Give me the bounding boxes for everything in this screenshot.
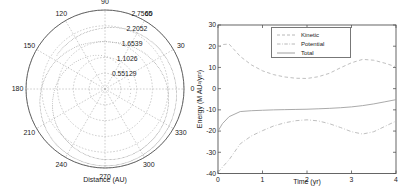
legend-label-total: Total xyxy=(301,50,314,56)
legend-label-kinetic: Kinetic xyxy=(301,32,319,38)
svg-text:2.2052: 2.2052 xyxy=(127,25,148,32)
svg-text:3: 3 xyxy=(350,176,354,183)
svg-text:1.1026: 1.1026 xyxy=(117,55,138,62)
svg-text:-40: -40 xyxy=(206,170,216,177)
svg-text:-30: -30 xyxy=(206,149,216,156)
svg-text:1.6539: 1.6539 xyxy=(122,40,143,47)
legend: Kinetic Potential Total xyxy=(271,27,351,58)
legend-row-kinetic: Kinetic xyxy=(276,30,350,39)
svg-text:300: 300 xyxy=(143,161,155,168)
polar-trajectory-plot: 03060901201501802102402703003300.551291.… xyxy=(12,0,195,180)
time-axis-label: Time (yr) xyxy=(293,178,321,185)
distance-axis-label: Distance (AU) xyxy=(83,176,127,183)
svg-text:180: 180 xyxy=(12,85,24,92)
svg-text:0: 0 xyxy=(212,85,216,92)
legend-label-potential: Potential xyxy=(301,41,324,47)
svg-text:30: 30 xyxy=(208,21,216,28)
svg-text:10: 10 xyxy=(208,64,216,71)
svg-text:2.7565: 2.7565 xyxy=(131,10,152,17)
svg-text:30: 30 xyxy=(177,42,185,49)
svg-text:1: 1 xyxy=(261,176,265,183)
total-solid-line-icon xyxy=(276,51,296,55)
svg-text:0: 0 xyxy=(216,176,220,183)
svg-text:330: 330 xyxy=(175,129,187,136)
legend-row-potential: Potential xyxy=(276,39,350,48)
svg-text:0.55129: 0.55129 xyxy=(112,70,137,77)
svg-text:120: 120 xyxy=(55,10,67,17)
svg-text:240: 240 xyxy=(55,161,67,168)
kinetic-dashed-line-icon xyxy=(276,33,296,37)
energy-axis-label: Energy (M AU²/yr²) xyxy=(196,70,203,128)
svg-text:90: 90 xyxy=(101,0,109,5)
svg-text:150: 150 xyxy=(23,42,35,49)
plots-drawing: 03060901201501802102402703003300.551291.… xyxy=(0,0,415,194)
legend-row-total: Total xyxy=(276,48,350,57)
svg-text:20: 20 xyxy=(208,43,216,50)
figure-canvas: 03060901201501802102402703003300.551291.… xyxy=(0,0,415,194)
svg-text:4: 4 xyxy=(394,176,398,183)
svg-text:-20: -20 xyxy=(206,127,216,134)
svg-text:0: 0 xyxy=(191,85,195,92)
svg-text:210: 210 xyxy=(23,129,35,136)
svg-text:-10: -10 xyxy=(206,106,216,113)
potential-dashdot-line-icon xyxy=(276,42,296,46)
